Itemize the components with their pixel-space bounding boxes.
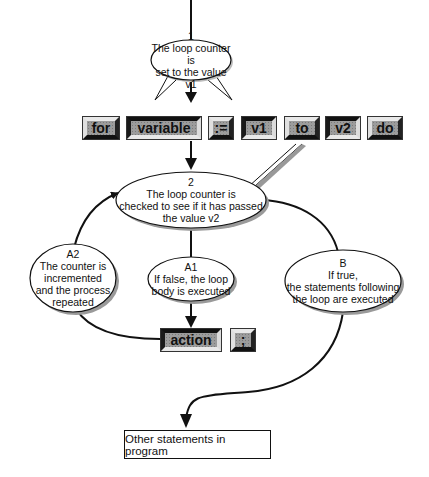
keyword-to-label: to xyxy=(295,120,308,136)
bubble-step-2-label: 2 xyxy=(119,176,263,188)
keyword-v2-label: v2 xyxy=(335,120,351,136)
bubble-step-1: 1The loop counter is set to the value v1 xyxy=(151,40,231,80)
keyword-do-label: do xyxy=(376,120,393,136)
keyword-do: do xyxy=(368,117,402,139)
keyword-action: action xyxy=(161,329,221,351)
keyword-for: for xyxy=(83,117,119,139)
terminal-box: Other statements in program xyxy=(124,430,271,459)
terminal-box-label: Other statements in program xyxy=(125,433,270,457)
bubble-b-text: If true, the statements following the lo… xyxy=(287,269,400,305)
bubble-step-1-text: The loop counter is set to the value v1 xyxy=(151,42,231,90)
bubble-a1-label: A1 xyxy=(152,261,231,273)
bubble-a2: A2The counter is incremented and the pro… xyxy=(30,244,116,312)
arrow-down-terminal xyxy=(180,414,192,428)
keyword-action-label: action xyxy=(170,332,211,348)
bubble-a2-label: A2 xyxy=(36,248,111,260)
arrow-down-1 xyxy=(185,92,197,103)
keyword-v1: v1 xyxy=(242,117,276,139)
keyword-variable: variable xyxy=(127,117,201,139)
loop-back-arc xyxy=(74,193,118,248)
arrow-down-a1 xyxy=(185,316,197,328)
arrow-down-2 xyxy=(185,158,197,170)
exit-arc xyxy=(262,200,338,252)
keyword-semicolon: ; xyxy=(231,329,255,351)
keyword-v1-label: v1 xyxy=(251,120,267,136)
keyword-variable-label: variable xyxy=(138,120,191,136)
keyword-assign: := xyxy=(209,117,233,139)
keyword-for-label: for xyxy=(92,120,111,136)
exit-to-terminal xyxy=(186,312,343,418)
bubble-a1: A1If false, the loop body is executed xyxy=(148,257,234,301)
bubble-b: BIf true, the statements following the l… xyxy=(285,250,401,312)
bubble-step-1-label: 1 xyxy=(151,30,231,42)
keyword-semicolon-label: ; xyxy=(241,332,246,348)
bubble-a2-text: The counter is incremented and the proce… xyxy=(36,260,111,308)
bubble-b-label: B xyxy=(287,257,400,269)
bubble-a1-text: If false, the loop body is executed xyxy=(152,273,231,297)
keyword-to: to xyxy=(285,117,319,139)
keyword-v2: v2 xyxy=(326,117,360,139)
bubble-step-2-text: The loop counter is checked to see if it… xyxy=(119,188,263,224)
keyword-assign-label: := xyxy=(215,120,228,136)
bubble-step-2: 2The loop counter is checked to see if i… xyxy=(116,172,266,228)
